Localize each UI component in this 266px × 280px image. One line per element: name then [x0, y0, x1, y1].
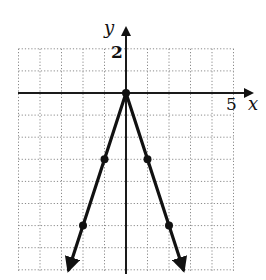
data-point-marker: [79, 222, 87, 230]
y-tick-label-2: 2: [111, 42, 123, 62]
data-point-marker: [122, 89, 130, 97]
y-axis-label: y: [103, 17, 115, 38]
x-axis-label: x: [248, 93, 258, 114]
function-graph: y 2 5 x: [0, 0, 266, 280]
data-point-marker: [165, 222, 173, 230]
data-point-marker: [144, 155, 152, 163]
data-point-marker: [101, 155, 109, 163]
axes: [18, 28, 252, 274]
x-tick-label-5: 5: [226, 94, 237, 114]
